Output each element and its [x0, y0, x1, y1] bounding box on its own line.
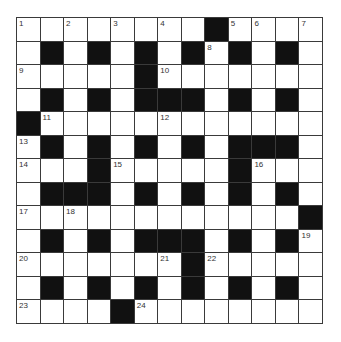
- grid-cell[interactable]: [135, 253, 158, 276]
- grid-cell[interactable]: [41, 159, 64, 182]
- grid-cell[interactable]: [252, 112, 275, 135]
- grid-cell[interactable]: [299, 253, 322, 276]
- grid-cell[interactable]: 12: [158, 112, 181, 135]
- grid-cell[interactable]: [205, 89, 228, 112]
- grid-cell[interactable]: [64, 300, 87, 323]
- grid-cell[interactable]: [299, 136, 322, 159]
- grid-cell[interactable]: [299, 89, 322, 112]
- grid-cell[interactable]: 17: [17, 206, 40, 229]
- grid-cell[interactable]: [135, 18, 158, 41]
- grid-cell[interactable]: 14: [17, 159, 40, 182]
- grid-cell[interactable]: [64, 159, 87, 182]
- grid-cell[interactable]: [252, 300, 275, 323]
- grid-cell[interactable]: 18: [64, 206, 87, 229]
- grid-cell[interactable]: [229, 206, 252, 229]
- grid-cell[interactable]: [205, 136, 228, 159]
- grid-cell[interactable]: [41, 253, 64, 276]
- grid-cell[interactable]: [252, 206, 275, 229]
- grid-cell[interactable]: 22: [205, 253, 228, 276]
- grid-cell[interactable]: [252, 65, 275, 88]
- grid-cell[interactable]: 2: [64, 18, 87, 41]
- grid-cell[interactable]: 5: [229, 18, 252, 41]
- grid-cell[interactable]: [299, 277, 322, 300]
- grid-cell[interactable]: 24: [135, 300, 158, 323]
- grid-cell[interactable]: [252, 89, 275, 112]
- grid-cell[interactable]: [182, 300, 205, 323]
- grid-cell[interactable]: [299, 159, 322, 182]
- grid-cell[interactable]: 1: [17, 18, 40, 41]
- grid-cell[interactable]: [41, 18, 64, 41]
- grid-cell[interactable]: 16: [252, 159, 275, 182]
- grid-cell[interactable]: [205, 300, 228, 323]
- grid-cell[interactable]: [64, 89, 87, 112]
- grid-cell[interactable]: 7: [299, 18, 322, 41]
- grid-cell[interactable]: [182, 112, 205, 135]
- grid-cell[interactable]: [205, 230, 228, 253]
- grid-cell[interactable]: [205, 112, 228, 135]
- grid-cell[interactable]: 13: [17, 136, 40, 159]
- grid-cell[interactable]: [158, 183, 181, 206]
- grid-cell[interactable]: [111, 65, 134, 88]
- grid-cell[interactable]: [88, 112, 111, 135]
- grid-cell[interactable]: [276, 159, 299, 182]
- grid-cell[interactable]: 8: [205, 42, 228, 65]
- grid-cell[interactable]: [276, 18, 299, 41]
- grid-cell[interactable]: [64, 253, 87, 276]
- grid-cell[interactable]: [299, 183, 322, 206]
- grid-cell[interactable]: [252, 42, 275, 65]
- grid-cell[interactable]: [135, 112, 158, 135]
- grid-cell[interactable]: [299, 300, 322, 323]
- grid-cell[interactable]: [205, 159, 228, 182]
- grid-cell[interactable]: [182, 159, 205, 182]
- grid-cell[interactable]: [252, 183, 275, 206]
- grid-cell[interactable]: [41, 300, 64, 323]
- grid-cell[interactable]: [182, 206, 205, 229]
- grid-cell[interactable]: [229, 300, 252, 323]
- grid-cell[interactable]: [64, 136, 87, 159]
- grid-cell[interactable]: [205, 65, 228, 88]
- grid-cell[interactable]: [158, 300, 181, 323]
- grid-cell[interactable]: [64, 277, 87, 300]
- grid-cell[interactable]: 4: [158, 18, 181, 41]
- grid-cell[interactable]: 21: [158, 253, 181, 276]
- grid-cell[interactable]: [17, 183, 40, 206]
- grid-cell[interactable]: [64, 230, 87, 253]
- grid-cell[interactable]: [299, 42, 322, 65]
- grid-cell[interactable]: [252, 277, 275, 300]
- grid-cell[interactable]: [205, 183, 228, 206]
- grid-cell[interactable]: [135, 159, 158, 182]
- grid-cell[interactable]: 11: [41, 112, 64, 135]
- grid-cell[interactable]: [276, 65, 299, 88]
- grid-cell[interactable]: [276, 253, 299, 276]
- grid-cell[interactable]: [41, 206, 64, 229]
- grid-cell[interactable]: [111, 42, 134, 65]
- grid-cell[interactable]: 19: [299, 230, 322, 253]
- grid-cell[interactable]: [88, 253, 111, 276]
- grid-cell[interactable]: [41, 65, 64, 88]
- grid-cell[interactable]: [88, 300, 111, 323]
- grid-cell[interactable]: [88, 18, 111, 41]
- grid-cell[interactable]: [64, 65, 87, 88]
- grid-cell[interactable]: [252, 253, 275, 276]
- grid-cell[interactable]: [111, 89, 134, 112]
- grid-cell[interactable]: 3: [111, 18, 134, 41]
- grid-cell[interactable]: [276, 112, 299, 135]
- grid-cell[interactable]: 6: [252, 18, 275, 41]
- grid-cell[interactable]: [88, 206, 111, 229]
- grid-cell[interactable]: [158, 42, 181, 65]
- grid-cell[interactable]: [111, 183, 134, 206]
- grid-cell[interactable]: [229, 112, 252, 135]
- grid-cell[interactable]: [111, 253, 134, 276]
- grid-cell[interactable]: [158, 159, 181, 182]
- grid-cell[interactable]: [111, 112, 134, 135]
- grid-cell[interactable]: [276, 300, 299, 323]
- grid-cell[interactable]: [299, 112, 322, 135]
- grid-cell[interactable]: [158, 277, 181, 300]
- grid-cell[interactable]: 15: [111, 159, 134, 182]
- grid-cell[interactable]: [111, 206, 134, 229]
- grid-cell[interactable]: [229, 65, 252, 88]
- grid-cell[interactable]: [158, 136, 181, 159]
- grid-cell[interactable]: [205, 277, 228, 300]
- grid-cell[interactable]: [17, 277, 40, 300]
- grid-cell[interactable]: [111, 230, 134, 253]
